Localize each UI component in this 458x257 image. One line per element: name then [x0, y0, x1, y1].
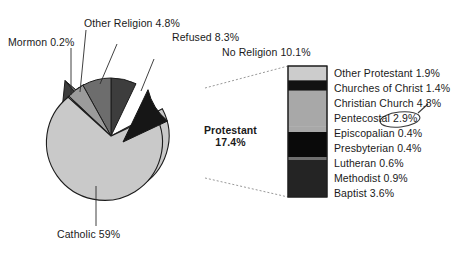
- legend-item-methodist: Methodist 0.9%: [334, 172, 408, 184]
- legend-item-lutheran: Lutheran 0.6%: [334, 157, 404, 169]
- leader-line-no-religion: [141, 59, 154, 91]
- bar-segment-christian-church: [288, 91, 327, 127]
- legend-item-other-protestant: Other Protestant 1.9%: [334, 67, 440, 79]
- pie-label-refused: Refused 8.3%: [172, 31, 239, 43]
- legend-item-presbyterian: Presbyterian 0.4%: [334, 142, 422, 154]
- religion-pie-of-bar-chart: Mormon 0.2% Other Religion 4.8% Refused …: [0, 0, 458, 257]
- expansion-line-bottom: [205, 178, 288, 197]
- bar-segment-churches-of-christ: [288, 80, 327, 91]
- pie-label-other-religion: Other Religion 4.8%: [84, 17, 180, 29]
- pie-label-mormon: Mormon 0.2%: [8, 36, 74, 48]
- bar-dark-block: [288, 132, 327, 157]
- pie-label-catholic: Catholic 59%: [57, 228, 120, 240]
- legend-item-churches-of-christ: Churches of Christ 1.4%: [334, 82, 450, 94]
- pie-label-protestant-name: Protestant: [204, 124, 257, 136]
- pie-label-protestant-value: 17.4%: [204, 136, 257, 148]
- leader-line-other-religion: [80, 30, 86, 92]
- bar-bottom-block: [288, 160, 327, 197]
- bar-segment-other-protestant: [288, 66, 327, 80]
- legend-item-pentecostal: Pentecostal 2.9%: [334, 112, 417, 124]
- pie-label-no-religion: No Religion 10.1%: [222, 46, 311, 58]
- legend-item-episcopalian: Episcopalian 0.4%: [334, 127, 422, 139]
- legend-item-baptist: Baptist 3.6%: [334, 187, 394, 199]
- pie-label-protestant: Protestant 17.4%: [204, 124, 257, 148]
- bar-thin-gray-strip: [288, 157, 327, 160]
- expansion-line-top: [205, 66, 288, 88]
- legend-item-christian-church: Christian Church 4.8%: [334, 97, 441, 109]
